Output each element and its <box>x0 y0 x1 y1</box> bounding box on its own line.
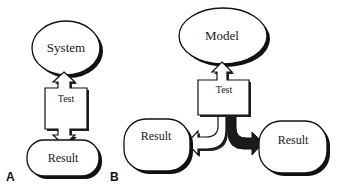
system-node: System <box>32 21 103 78</box>
white-curved-arrow <box>187 114 228 157</box>
panel-b: Model Test Result Result B <box>110 8 330 184</box>
result-node: Result <box>27 140 102 179</box>
diagram-canvas: System Test Result A Model <box>0 0 337 186</box>
result-right-node: Result <box>259 121 330 176</box>
result-label: Result <box>48 151 79 165</box>
dark-curved-arrow <box>228 114 263 155</box>
panel-a: System Test Result A <box>6 21 103 184</box>
model-node: Model <box>179 8 270 67</box>
result-right-label: Result <box>278 133 309 147</box>
result-left-label: Result <box>141 129 172 143</box>
system-label: System <box>47 40 85 55</box>
test-up-arrow: Test <box>198 62 251 117</box>
test-label-b: Test <box>216 84 233 95</box>
result-left-node: Result <box>124 119 193 174</box>
model-label: Model <box>205 28 239 43</box>
panel-label-b: B <box>110 170 119 184</box>
panel-label-a: A <box>6 170 15 184</box>
test-double-arrow: Test <box>45 72 89 147</box>
test-label: Test <box>58 93 75 104</box>
